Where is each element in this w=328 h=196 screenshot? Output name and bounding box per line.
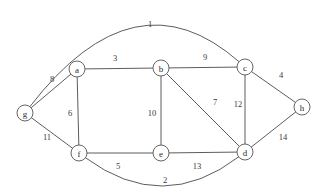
graph-edge-c-h (252, 72, 296, 103)
nodes-layer: gabchdef (17, 59, 310, 161)
node-label-g: g (23, 109, 28, 119)
graph-canvas: 1234567891011121314 gabchdef (0, 0, 328, 196)
graph-node-f: f (71, 145, 87, 161)
edge-weight-g-f: 11 (43, 132, 51, 142)
node-label-c: c (243, 63, 247, 73)
edge-weight-c-d: 12 (234, 99, 243, 109)
edge-weight-e-d: 13 (193, 161, 202, 171)
graph-edge-d-h (251, 112, 295, 147)
edge-weight-f-e: 5 (116, 161, 120, 171)
node-label-h: h (300, 103, 305, 113)
graph-edge-a-b (85, 68, 153, 69)
graph-figure: 1234567891011121314 gabchdef (0, 0, 328, 196)
edge-weight-c-h: 4 (279, 70, 284, 80)
graph-edge-g-c (30, 25, 239, 107)
node-label-a: a (75, 65, 79, 75)
node-label-b: b (159, 64, 164, 74)
graph-node-c: c (237, 59, 253, 75)
edge-weight-b-e: 10 (148, 108, 157, 118)
node-label-e: e (159, 149, 163, 159)
edge-weight-a-f: 6 (68, 108, 72, 118)
graph-node-h: h (294, 99, 310, 115)
edge-weight-a-b: 3 (113, 53, 117, 63)
edges-layer (30, 25, 296, 186)
edge-weight-d-h: 14 (279, 132, 288, 142)
graph-edge-g-f (31, 118, 72, 148)
graph-edge-e-d (169, 152, 237, 153)
edge-weight-b-c: 9 (203, 52, 207, 62)
graph-node-a: a (69, 61, 85, 77)
graph-edge-b-c (169, 67, 237, 68)
graph-node-g: g (17, 105, 33, 121)
edge-weight-g-a: 8 (50, 74, 54, 84)
graph-node-b: b (153, 60, 169, 76)
edge-weight-f-d: 2 (163, 175, 167, 185)
graph-node-e: e (153, 145, 169, 161)
graph-edge-b-d (167, 74, 240, 147)
node-label-d: d (243, 148, 248, 158)
graph-edge-a-f (77, 77, 79, 145)
edge-weight-b-d: 7 (213, 97, 217, 107)
edge-weight-g-c: 1 (148, 19, 152, 29)
graph-node-d: d (237, 144, 253, 160)
node-label-f: f (78, 149, 81, 159)
